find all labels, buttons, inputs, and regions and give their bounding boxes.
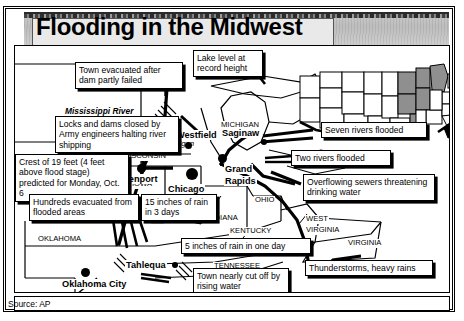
map-dot-westfield [185, 142, 192, 149]
callout-hundreds-evacuated: Hundreds evacuated from flooded areas [29, 194, 139, 221]
city-label-tahlequa: Tahlequa [125, 260, 167, 270]
state-label-kentucky: KENTUCKY [229, 227, 272, 236]
state-label-west: WEST [305, 215, 329, 224]
source-bar [14, 296, 450, 311]
map-dot-davenport [137, 164, 146, 173]
callout-rain-15-inches: 15 inches of rain in 3 days [141, 194, 217, 221]
page-title: Flooding in the Midwest [36, 13, 302, 41]
city-label-oklahoma-city: Oklahoma City [61, 279, 127, 289]
callout-town-cut-off: Town nearly cut off by rising water [193, 268, 289, 293]
state-label-oklahoma: OKLAHOMA [37, 235, 82, 244]
city-label-saginaw: Saginaw [221, 128, 260, 138]
source-label: Source: AP [8, 299, 51, 309]
callout-rain-5-inches: 5 inches of rain in one day [181, 238, 311, 254]
map-dot-grand-rapids [218, 154, 227, 163]
callout-sewers: Overflowing sewers threatening drinking … [303, 174, 435, 201]
map-dot-tahlequa [172, 262, 178, 268]
news-graphic: Flooding in the Midwest [0, 0, 464, 321]
map-dot-saginaw [261, 139, 267, 145]
city-label-chicago: Chicago [167, 184, 205, 194]
callout-lake-level: Lake level at record height [193, 50, 263, 77]
callout-seven-rivers: Seven rivers flooded [321, 122, 427, 138]
river-label-mississippi: Mississippi River [63, 106, 135, 116]
state-label-ohio: OHIO [254, 196, 275, 205]
city-label-grand: Grand [224, 164, 253, 174]
map-area: Mississippi River Lake Michigan WISCONSI… [14, 45, 450, 293]
callout-locks-dams: Locks and dams closed by Army engineers … [55, 116, 179, 153]
callout-thunderstorms: Thunderstorms, heavy rains [305, 260, 433, 276]
state-label-wvirginia: VIRGINIA [305, 226, 340, 235]
callout-two-rivers: Two rivers flooded [291, 150, 391, 166]
map-dot-oklahoma-city [81, 268, 90, 277]
city-label-westfield: Westfield [175, 130, 218, 140]
city-label-rapids: Rapids [224, 176, 257, 186]
callout-dam-evacuation: Town evacuated after dam partly failed [75, 62, 183, 89]
map-dot-chicago [186, 168, 198, 180]
state-label-virginia: VIRGINIA [347, 239, 382, 248]
